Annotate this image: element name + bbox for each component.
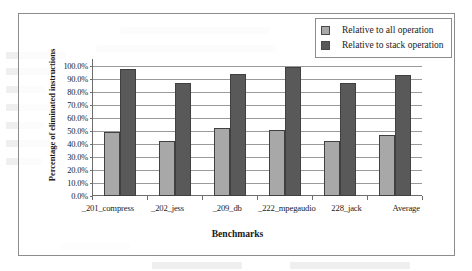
x-axis-tick-mark (92, 196, 93, 200)
bar (230, 74, 246, 196)
x-axis-tick-mark (147, 196, 148, 200)
x-axis-tick-label: 228_jack (317, 203, 377, 213)
bar (379, 135, 395, 196)
legend-item-stack-operation: Relative to stack operation (321, 38, 444, 53)
y-axis-tick-labels: 100.0%90.0%80.0%70.0%60.0%50.0%40.0%30.0… (44, 66, 88, 196)
bar (104, 132, 120, 196)
bar (340, 83, 356, 196)
bar (269, 130, 285, 196)
y-axis-tick-label: 30.0% (67, 153, 88, 162)
bar (324, 141, 340, 196)
bar-group (312, 66, 367, 196)
legend-label-all-operation: Relative to all operation (342, 25, 434, 36)
legend-label-stack-operation: Relative to stack operation (342, 40, 444, 51)
bar (120, 69, 136, 196)
bar (175, 83, 191, 196)
y-axis-tick-label: 10.0% (67, 179, 88, 188)
bar-group (148, 66, 203, 196)
bar (214, 128, 230, 196)
y-axis-tick-label: 40.0% (67, 140, 88, 149)
y-axis-tick-label: 50.0% (67, 127, 88, 136)
y-axis-tick-label: 100.0% (63, 62, 88, 71)
y-axis-tick-label: 90.0% (67, 75, 88, 84)
bar (395, 75, 411, 196)
bar-group (203, 66, 258, 196)
legend-item-all-operation: Relative to all operation (321, 23, 444, 38)
bar-group (367, 66, 422, 196)
x-axis-tick-mark (312, 196, 313, 200)
x-axis-tick-labels: _201_compress_202_jess_209_db_222_mpegau… (78, 203, 436, 213)
x-axis-tick-mark (202, 196, 203, 200)
plot-area (92, 59, 422, 196)
y-axis-tick-label: 70.0% (67, 101, 88, 110)
plot-wrapper: 100.0%90.0%80.0%70.0%60.0%50.0%40.0%30.0… (92, 59, 422, 202)
bar (159, 141, 175, 196)
chart-legend: Relative to all operation Relative to st… (315, 18, 452, 58)
x-axis-tick-mark (257, 196, 258, 200)
y-axis-tick-label: 20.0% (67, 166, 88, 175)
bars-layer (93, 66, 422, 196)
x-axis-tick-label: _201_compress (78, 203, 138, 213)
x-axis-tick-label: _222_mpegaudio (257, 203, 317, 213)
x-axis-tick-mark (422, 196, 423, 200)
legend-swatch-icon-all-operation (321, 26, 330, 35)
x-axis-title: Benchmarks (19, 228, 456, 239)
y-axis-tick-label: 60.0% (67, 114, 88, 123)
x-axis-tick-label: Average (376, 203, 436, 213)
y-axis-tick-label: 80.0% (67, 88, 88, 97)
x-axis-separators (92, 196, 422, 200)
y-axis-tick-label: 0.0% (71, 192, 88, 201)
legend-swatch-icon-stack-operation (321, 41, 330, 50)
bar (285, 67, 301, 196)
bar-group (93, 66, 148, 196)
bar-group (257, 66, 312, 196)
x-axis-tick-label: _209_db (197, 203, 257, 213)
chart-container: Relative to all operation Relative to st… (18, 13, 455, 256)
x-axis-tick-mark (367, 196, 368, 200)
x-axis-tick-label: _202_jess (138, 203, 198, 213)
